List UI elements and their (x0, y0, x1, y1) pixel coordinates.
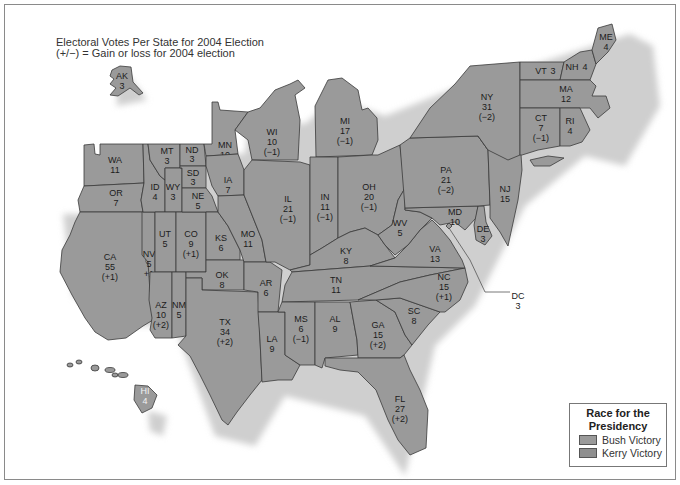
state-ca[interactable]: CA 55 (+1) (60, 212, 153, 340)
legend-title-line-1: Race for the (570, 407, 666, 420)
change-ms: (−1) (293, 334, 309, 344)
legend-label-bush: Bush Victory (602, 434, 661, 446)
label-ga: GA (371, 320, 384, 330)
votes-nh: 4 (582, 62, 587, 72)
label-ri: RI (566, 116, 575, 126)
state-nd[interactable]: ND 3 (180, 144, 206, 166)
label-nj: NJ (500, 184, 511, 194)
state-wy[interactable]: WY 3 (165, 168, 182, 212)
label-va: VA (429, 244, 440, 254)
label-ma: MA (559, 84, 573, 94)
state-az[interactable]: AZ 10 (+2) (149, 272, 172, 338)
label-ok: OK (215, 270, 228, 280)
label-nm: NM (172, 300, 186, 310)
change-tx: (+2) (217, 337, 233, 347)
label-ca: CA (104, 252, 117, 262)
change-co: (+1) (183, 249, 199, 259)
votes-tx: 34 (220, 327, 230, 337)
votes-wv: 5 (397, 228, 402, 238)
legend-title: Race for the Presidency (570, 407, 666, 433)
votes-ok: 8 (219, 280, 224, 290)
label-fl: FL (395, 394, 406, 404)
label-dc: DC (512, 291, 525, 301)
label-mi: MI (340, 116, 350, 126)
state-nh[interactable]: NH 4 (560, 50, 596, 80)
label-hi: HI (141, 386, 150, 396)
votes-in: 11 (320, 202, 329, 212)
votes-az: 10 (156, 310, 166, 320)
state-ut[interactable]: UT 5 (155, 212, 176, 272)
label-nh: NH (566, 62, 579, 72)
votes-ia: 7 (225, 185, 230, 195)
label-ak: AK (116, 71, 128, 81)
votes-nv: 5 (146, 259, 151, 269)
label-co: CO (184, 229, 198, 239)
state-vt[interactable]: VT 3 (520, 62, 564, 80)
votes-pa: 21 (441, 175, 451, 185)
votes-ms: 6 (298, 324, 303, 334)
votes-al: 9 (332, 324, 337, 334)
state-pa[interactable]: PA 21 (−2) (400, 136, 490, 208)
label-oh: OH (362, 182, 376, 192)
change-nc: (+1) (436, 292, 452, 302)
label-mn: MN (218, 140, 232, 150)
votes-or: 7 (113, 198, 118, 208)
label-ut: UT (159, 229, 171, 239)
votes-sd: 3 (190, 177, 195, 187)
legend-item-kerry: Kerry Victory (579, 447, 666, 459)
bush-swatch-icon (579, 435, 597, 445)
label-ne: NE (192, 191, 205, 201)
state-co[interactable]: CO 9 (+1) (176, 212, 206, 272)
votes-ri: 4 (567, 126, 572, 136)
label-wv: WV (393, 218, 408, 228)
votes-mi: 17 (340, 126, 350, 136)
votes-ks: 6 (218, 243, 223, 253)
label-ks: KS (215, 233, 227, 243)
votes-ne: 5 (195, 201, 200, 211)
state-wi[interactable]: WI 10 (−1) (235, 80, 305, 160)
legend-label-kerry: Kerry Victory (602, 447, 662, 459)
change-fl: (+2) (392, 414, 408, 424)
label-nc: NC (438, 272, 451, 282)
label-de: DE (477, 224, 490, 234)
label-ms: MS (294, 314, 308, 324)
votes-ut: 5 (162, 239, 167, 249)
change-mi: (−1) (337, 136, 353, 146)
change-ca: (+1) (102, 272, 118, 282)
change-ct: (−1) (533, 133, 549, 143)
label-ct: CT (535, 113, 547, 123)
votes-ny: 31 (482, 102, 492, 112)
label-il: IL (284, 194, 292, 204)
votes-id: 4 (152, 192, 157, 202)
state-hi[interactable]: HI 4 (67, 360, 157, 413)
change-az: (+2) (153, 320, 169, 330)
legend: Race for the Presidency Bush Victory Ker… (569, 403, 667, 467)
votes-de: 3 (480, 234, 485, 244)
label-tn: TN (330, 275, 342, 285)
legend-item-bush: Bush Victory (579, 434, 666, 446)
label-al: AL (329, 314, 340, 324)
label-mo: MO (241, 229, 256, 239)
votes-mo: 11 (243, 239, 252, 249)
change-wi: (−1) (264, 147, 280, 157)
label-pa: PA (440, 165, 451, 175)
state-or[interactable]: OR 7 (78, 183, 144, 212)
state-sd[interactable]: SD 3 (180, 166, 206, 188)
votes-co: 9 (188, 239, 193, 249)
state-mi[interactable]: MI 17 (−1) (315, 78, 378, 157)
label-mt: MT (161, 146, 174, 156)
votes-me: 4 (603, 42, 608, 52)
change-ny: (−2) (479, 112, 495, 122)
state-nm[interactable]: NM 5 (172, 272, 186, 338)
votes-ky: 8 (343, 256, 348, 266)
change-pa: (−2) (438, 185, 454, 195)
legend-title-line-2: Presidency (570, 420, 666, 433)
change-oh: (−1) (361, 202, 377, 212)
votes-sc: 8 (411, 316, 416, 326)
label-ky: KY (340, 246, 352, 256)
change-ga: (+2) (370, 340, 386, 350)
votes-va: 13 (430, 254, 440, 264)
votes-ak: 3 (119, 81, 124, 91)
votes-nd: 3 (189, 154, 194, 164)
state-wa[interactable]: WA 11 (84, 144, 144, 186)
